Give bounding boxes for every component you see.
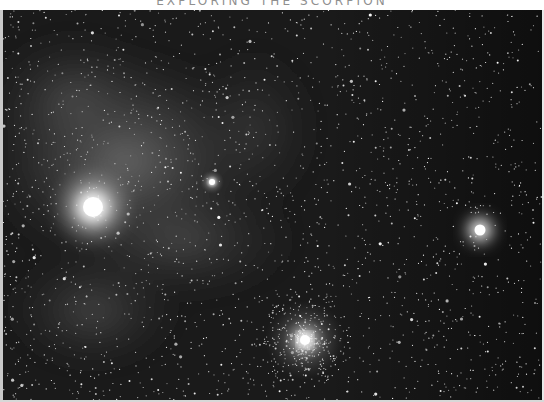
star-field-image <box>3 10 542 400</box>
bright-star-right-glow <box>458 208 502 252</box>
page-header: EXPLORING THE SCORPION <box>0 0 544 10</box>
running-head: EXPLORING THE SCORPION <box>0 0 544 8</box>
small-cluster-glow <box>200 170 224 194</box>
star-field-photo <box>3 10 542 400</box>
bright-star-left-glow <box>49 163 137 251</box>
